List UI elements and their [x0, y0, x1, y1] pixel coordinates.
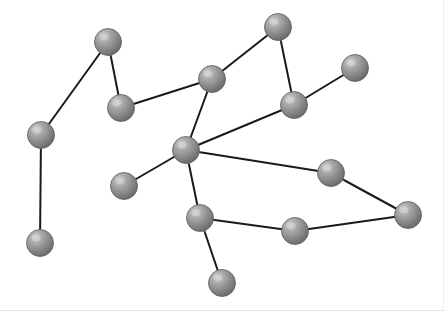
- graph-node[interactable]: [199, 66, 226, 93]
- graph-edge: [186, 105, 294, 150]
- graph-edge: [40, 135, 41, 243]
- node-specular-highlight: [32, 126, 41, 133]
- node-specular-highlight: [285, 96, 294, 103]
- node-specular-highlight: [269, 18, 278, 25]
- graph-node[interactable]: [187, 205, 214, 232]
- graph-node[interactable]: [282, 218, 309, 245]
- graph-node[interactable]: [108, 95, 135, 122]
- node-specular-highlight: [213, 274, 222, 281]
- graph-edge: [186, 150, 331, 173]
- graph-edge: [41, 42, 108, 135]
- node-layer: [27, 14, 422, 297]
- graph-node[interactable]: [342, 55, 369, 82]
- node-specular-highlight: [286, 222, 295, 229]
- graph-node[interactable]: [265, 14, 292, 41]
- network-graph: [0, 0, 444, 311]
- graph-node[interactable]: [318, 160, 345, 187]
- graph-node[interactable]: [27, 230, 54, 257]
- node-specular-highlight: [346, 59, 355, 66]
- node-specular-highlight: [31, 234, 40, 241]
- graph-node[interactable]: [111, 173, 138, 200]
- graph-node[interactable]: [28, 122, 55, 149]
- node-specular-highlight: [322, 164, 331, 171]
- node-specular-highlight: [99, 33, 108, 40]
- node-specular-highlight: [177, 141, 186, 148]
- graph-node[interactable]: [395, 202, 422, 229]
- graph-edge: [295, 215, 408, 231]
- graph-node[interactable]: [173, 137, 200, 164]
- graph-node[interactable]: [95, 29, 122, 56]
- network-diagram-canvas: [0, 0, 444, 311]
- node-specular-highlight: [399, 206, 408, 213]
- node-specular-highlight: [115, 177, 124, 184]
- graph-node[interactable]: [281, 92, 308, 119]
- graph-edge: [121, 79, 212, 108]
- graph-node[interactable]: [209, 270, 236, 297]
- node-specular-highlight: [112, 99, 121, 106]
- node-specular-highlight: [191, 209, 200, 216]
- node-specular-highlight: [203, 70, 212, 77]
